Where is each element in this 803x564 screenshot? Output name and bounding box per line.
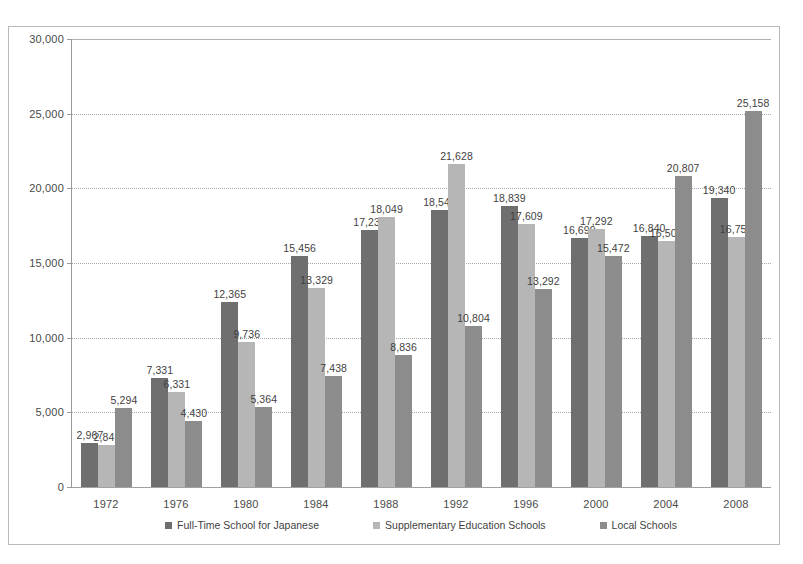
bar[interactable]: 16,840 [641, 236, 658, 487]
x-axis-tick-label: 1980 [211, 488, 281, 510]
bar[interactable]: 18,839 [501, 206, 518, 487]
bar-value-label: 9,736 [233, 328, 260, 340]
bar-value-label: 10,804 [457, 312, 490, 324]
bar[interactable]: 5,294 [115, 408, 132, 487]
y-axis-tick-label: 25,000 [29, 108, 64, 120]
legend-label: Local Schools [612, 519, 677, 531]
bar-value-label: 17,292 [580, 215, 613, 227]
bar[interactable]: 9,736 [238, 342, 255, 487]
bar-value-label: 4,430 [180, 407, 207, 419]
bar[interactable]: 2,967 [81, 443, 98, 487]
bar[interactable]: 17,238 [361, 230, 378, 487]
y-axis-tick-label: 20,000 [29, 182, 64, 194]
bar[interactable]: 17,292 [588, 229, 605, 487]
bar-value-label: 18,049 [370, 203, 403, 215]
y-axis-tick-label: 5,000 [35, 406, 64, 418]
bar[interactable]: 10,804 [465, 326, 482, 487]
bar-value-label: 17,609 [510, 210, 543, 222]
bar-group-1984: 15,45613,3297,438 [282, 39, 352, 487]
bar[interactable]: 17,609 [518, 224, 535, 487]
legend-label: Full-Time School for Japanese [177, 519, 319, 531]
bar[interactable]: 4,430 [185, 421, 202, 487]
bar-value-label: 6,331 [163, 378, 190, 390]
bar[interactable]: 25,158 [745, 111, 762, 487]
bar[interactable]: 16,754 [728, 237, 745, 487]
x-axis-tick-label: 1976 [141, 488, 211, 510]
bar-group-1980: 12,3659,7365,364 [212, 39, 282, 487]
bar[interactable]: 13,292 [535, 289, 552, 487]
bar-group-2000: 16,69917,29215,472 [561, 39, 631, 487]
y-axis-tick-label: 0 [58, 481, 64, 493]
y-axis-tick-label: 10,000 [29, 332, 64, 344]
bar[interactable]: 16,699 [571, 238, 588, 487]
bar[interactable]: 15,456 [291, 256, 308, 487]
bar-group-1976: 7,3316,3314,430 [142, 39, 212, 487]
x-axis-tick-label: 2008 [701, 488, 771, 510]
bar-value-label: 25,158 [737, 97, 770, 109]
y-axis-tick-label: 30,000 [29, 33, 64, 45]
bar-value-label: 20,807 [667, 162, 700, 174]
bar-group-1992: 18,54521,62810,804 [422, 39, 492, 487]
bar-value-label: 12,365 [213, 288, 246, 300]
legend-item[interactable]: Local Schools [600, 519, 677, 531]
bar[interactable]: 20,807 [675, 176, 692, 487]
legend-label: Supplementary Education Schools [385, 519, 546, 531]
bars-layer: 2,9672,8455,2947,3316,3314,43012,3659,73… [72, 39, 771, 487]
bar-group-1996: 18,83917,60913,292 [491, 39, 561, 487]
bar-value-label: 7,438 [320, 362, 347, 374]
x-axis-tick-label: 1992 [421, 488, 491, 510]
bar-value-label: 8,836 [390, 341, 417, 353]
x-axis-tick-label: 2004 [631, 488, 701, 510]
bar-value-label: 19,340 [703, 184, 736, 196]
bar-group-1988: 17,23818,0498,836 [352, 39, 422, 487]
bar-value-label: 13,329 [300, 274, 333, 286]
bar-value-label: 5,294 [111, 394, 138, 406]
legend-item[interactable]: Supplementary Education Schools [373, 519, 546, 531]
bar-group-2004: 16,84016,50120,807 [631, 39, 701, 487]
bar-group-1972: 2,9672,8455,294 [72, 39, 142, 487]
y-axis-tick-label: 15,000 [29, 257, 64, 269]
legend-swatch-icon [600, 522, 607, 529]
bar-value-label: 15,472 [597, 242, 630, 254]
bar-value-label: 13,292 [527, 275, 560, 287]
chart-legend: Full-Time School for JapaneseSupplementa… [71, 519, 771, 531]
legend-swatch-icon [165, 522, 172, 529]
bar[interactable]: 21,628 [448, 164, 465, 487]
bar[interactable]: 2,845 [98, 445, 115, 487]
bar-value-label: 5,364 [250, 393, 277, 405]
x-axis-tick-label: 2000 [561, 488, 631, 510]
bar[interactable]: 16,501 [658, 241, 675, 487]
bar-group-2008: 19,34016,75425,158 [701, 39, 771, 487]
bar[interactable]: 5,364 [255, 407, 272, 487]
x-axis-tick-label: 1984 [281, 488, 351, 510]
legend-item[interactable]: Full-Time School for Japanese [165, 519, 319, 531]
x-axis-tick-label: 1972 [71, 488, 141, 510]
x-axis: 1972197619801984198819921996200020042008 [71, 488, 771, 510]
bar[interactable]: 19,340 [711, 198, 728, 487]
legend-swatch-icon [373, 522, 380, 529]
bar[interactable]: 8,836 [395, 355, 412, 487]
chart-frame: 05,00010,00015,00020,00025,00030,000 2,9… [8, 26, 780, 545]
x-axis-tick-label: 1996 [491, 488, 561, 510]
bar-value-label: 7,331 [146, 364, 173, 376]
bar-value-label: 15,456 [283, 242, 316, 254]
bar[interactable]: 15,472 [605, 256, 622, 487]
x-axis-tick-label: 1988 [351, 488, 421, 510]
bar-value-label: 18,839 [493, 192, 526, 204]
plot-area: 05,00010,00015,00020,00025,00030,000 2,9… [71, 39, 771, 488]
bar[interactable]: 7,331 [151, 378, 168, 487]
bar[interactable]: 13,329 [308, 288, 325, 487]
bar[interactable]: 7,438 [325, 376, 342, 487]
bar[interactable]: 18,545 [431, 210, 448, 487]
bar-value-label: 21,628 [440, 150, 473, 162]
